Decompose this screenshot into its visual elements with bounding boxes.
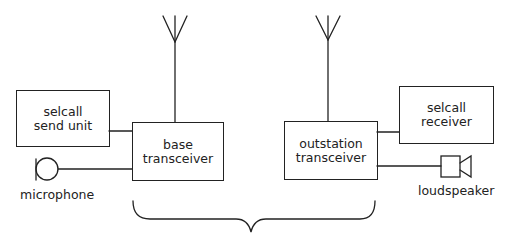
loudspeaker-label: loudspeaker (418, 184, 494, 198)
base-antenna-icon (163, 16, 187, 122)
grouping-brace (133, 201, 375, 232)
base-transceiver-block: base transceiver (132, 122, 224, 181)
outstation-transceiver-line1: outstation (299, 137, 363, 151)
microphone-icon (36, 158, 58, 180)
outstation-antenna-icon (316, 16, 340, 121)
selcall-send-unit-block: selcall send unit (16, 90, 110, 147)
loudspeaker-icon (441, 156, 471, 177)
base-transceiver-line2: transceiver (143, 152, 213, 166)
base-transceiver-line1: base (163, 138, 193, 152)
outstation-transceiver-line2: transceiver (296, 151, 366, 165)
selcall-receiver-line1: selcall (427, 101, 466, 115)
selcall-send-unit-line1: selcall (43, 105, 82, 119)
selcall-receiver-block: selcall receiver (399, 86, 494, 144)
selcall-send-unit-line2: send unit (34, 119, 92, 133)
outstation-transceiver-block: outstation transceiver (284, 121, 378, 180)
microphone-label: microphone (20, 188, 94, 202)
selcall-receiver-line2: receiver (421, 115, 472, 129)
